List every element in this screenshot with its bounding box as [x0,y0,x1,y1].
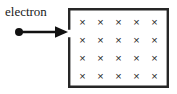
field-cross: × [146,53,164,64]
field-cross: × [128,17,146,28]
electron-label: electron [5,5,47,19]
field-cross: × [92,17,110,28]
physics-diagram: electron × × × × × × × × × × [0,0,177,94]
field-cross: × [92,35,110,46]
field-cross: × [110,53,128,64]
magnetic-field-region: × × × × × × × × × × × × × × × × [68,8,169,88]
field-cross: × [74,71,92,82]
field-cross: × [110,35,128,46]
field-cross: × [74,35,92,46]
field-cross: × [146,35,164,46]
field-cross: × [110,71,128,82]
field-cross: × [74,17,92,28]
field-row: × × × × × [68,13,169,31]
field-cross-grid: × × × × × × × × × × × × × × × × [68,8,169,88]
field-cross: × [146,71,164,82]
field-cross: × [110,17,128,28]
field-cross: × [128,35,146,46]
field-cross: × [146,17,164,28]
field-cross: × [74,53,92,64]
velocity-arrow-icon [21,24,68,40]
field-row: × × × × × [68,31,169,49]
field-cross: × [128,71,146,82]
field-row: × × × × × [68,67,169,85]
field-row: × × × × × [68,49,169,67]
field-cross: × [92,71,110,82]
field-cross: × [92,53,110,64]
field-cross: × [128,53,146,64]
